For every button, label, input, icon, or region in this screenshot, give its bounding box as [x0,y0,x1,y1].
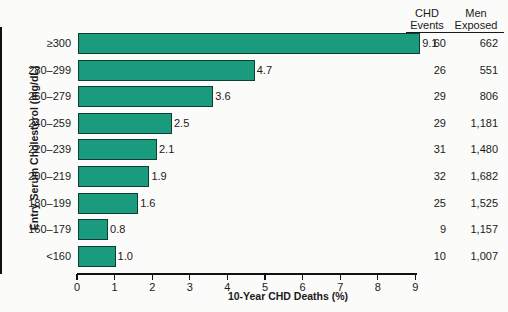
chart-row: 240–2592.5291,181 [0,113,508,134]
chart-row: 160–1790.891,157 [0,219,508,240]
bar-value-label: 1.0 [118,250,133,262]
category-label: <160 [0,250,71,262]
men-exposed-value: 1,480 [452,143,498,155]
men-exposed-header-line1: Men [448,7,504,19]
x-tick-6 [302,274,303,280]
category-label: 260–279 [0,90,71,102]
bar [78,33,420,54]
x-tick-9 [415,274,416,280]
category-label: 280–299 [0,64,71,76]
bar [78,86,213,107]
chart-row: ≥3009.160662 [0,33,508,54]
men-exposed-value: 806 [452,90,498,102]
chd-events-value: 31 [412,143,446,155]
men-exposed-value: 1,682 [452,170,498,182]
men-exposed-value: 1,157 [452,223,498,235]
chd-events-value: 32 [412,170,446,182]
x-tick-8 [377,274,378,280]
bar-value-label: 0.8 [110,223,125,235]
chart-row: <1601.0101,007 [0,246,508,267]
bar-value-label: 1.9 [151,170,166,182]
x-tick-2 [152,274,153,280]
chd-events-value: 9 [412,223,446,235]
chd-events-value: 10 [412,250,446,262]
x-tick-0 [76,274,77,280]
x-axis-title: 10-Year CHD Deaths (%) [118,290,458,302]
men-exposed-value: 551 [452,64,498,76]
men-exposed-value: 1,007 [452,250,498,262]
chd-events-value: 60 [412,37,446,49]
x-axis-line [77,273,417,275]
category-label: 220–239 [0,143,71,155]
category-label: ≥300 [0,37,71,49]
category-label: 180–199 [0,197,71,209]
category-label: 200–219 [0,170,71,182]
chd-events-header-line1: CHD [406,7,448,19]
column-header-chd-events: CHD Events [406,7,448,33]
chart-row: 180–1991.6251,525 [0,193,508,214]
x-tick-4 [227,274,228,280]
x-tick-1 [114,274,115,280]
category-label: 160–179 [0,223,71,235]
chd-events-value: 26 [412,64,446,76]
x-tick-5 [264,274,265,280]
chd-events-value: 25 [412,197,446,209]
bar [78,166,149,187]
chd-events-header-line2: Events [406,19,448,33]
chd-events-value: 29 [412,117,446,129]
chd-events-value: 29 [412,90,446,102]
chart-row: 200–2191.9321,682 [0,166,508,187]
column-header-men-exposed: Men Exposed [448,7,504,33]
bar [78,246,116,267]
chart-row: 260–2793.629806 [0,86,508,107]
chart-row: 280–2994.726551 [0,60,508,81]
bar-value-label: 1.6 [140,197,155,209]
x-tick-7 [340,274,341,280]
men-exposed-value: 1,525 [452,197,498,209]
bar-value-label: 4.7 [257,64,272,76]
x-tick-label-0: 0 [62,281,92,293]
men-exposed-value: 1,181 [452,117,498,129]
bar-value-label: 2.5 [174,117,189,129]
bar [78,60,255,81]
men-exposed-value: 662 [452,37,498,49]
bar-value-label: 3.6 [215,90,230,102]
category-label: 240–259 [0,117,71,129]
bar-value-label: 2.1 [159,143,174,155]
men-exposed-header-line2: Exposed [448,19,504,33]
bar [78,219,108,240]
chart-row: 220–2392.1311,480 [0,139,508,160]
chart-figure: Entry Serum Cholesterol (mg/dL) 01234567… [0,0,508,312]
x-tick-3 [189,274,190,280]
bar [78,193,138,214]
bar [78,139,157,160]
bar [78,113,172,134]
